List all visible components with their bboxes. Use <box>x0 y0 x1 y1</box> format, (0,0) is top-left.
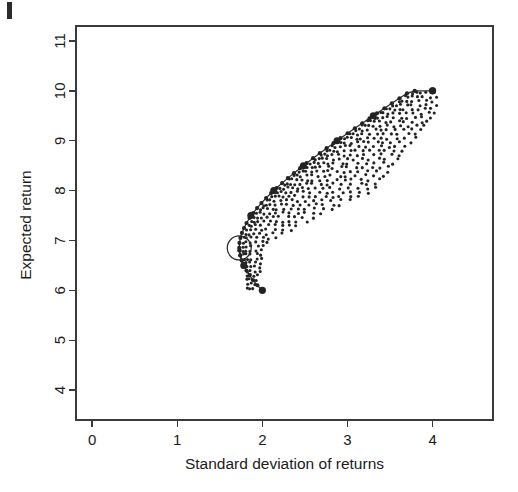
frontier-point <box>264 196 268 200</box>
x-axis-ticks <box>92 420 432 427</box>
portfolio-dot <box>350 136 353 139</box>
lower-branch-point <box>255 283 259 287</box>
portfolio-dot <box>377 140 380 143</box>
frontier-point <box>240 231 244 235</box>
portfolio-dot <box>378 157 381 160</box>
portfolio-dot <box>425 99 428 102</box>
portfolio-dot <box>366 187 369 190</box>
portfolio-dot <box>380 137 383 140</box>
portfolio-dot <box>315 202 318 205</box>
portfolio-dot <box>326 162 329 165</box>
portfolio-dot <box>419 91 422 94</box>
portfolio-dot <box>398 140 401 143</box>
portfolio-dot <box>305 173 308 176</box>
portfolio-dot <box>339 145 342 148</box>
portfolio-dot <box>399 124 402 127</box>
frontier-point <box>311 156 315 160</box>
portfolio-dot <box>360 178 363 181</box>
y-axis-ticks <box>69 41 76 390</box>
portfolio-dot <box>258 266 261 269</box>
portfolio-dot <box>282 208 285 211</box>
portfolio-dot <box>406 96 409 99</box>
portfolio-dot <box>344 178 347 181</box>
portfolio-dot <box>421 121 424 124</box>
portfolio-dot <box>261 240 264 243</box>
portfolio-dot <box>278 187 281 190</box>
x-axis-title: Standard deviation of returns <box>185 455 384 472</box>
portfolio-dot <box>248 269 251 272</box>
portfolio-dot <box>260 217 263 220</box>
frontier-point <box>237 241 241 245</box>
portfolio-dot <box>242 246 245 249</box>
portfolio-dot <box>389 120 392 123</box>
portfolio-dot <box>414 136 417 139</box>
portfolio-dot <box>256 220 259 223</box>
portfolio-dot <box>274 236 277 239</box>
portfolio-dot <box>287 220 290 223</box>
portfolio-dot <box>407 125 410 128</box>
portfolio-dot <box>392 149 395 152</box>
portfolio-dot <box>323 153 326 156</box>
portfolio-dot <box>268 212 271 215</box>
portfolio-dot <box>375 128 378 131</box>
portfolio-dot <box>349 190 352 193</box>
portfolio-dot <box>384 121 387 124</box>
portfolio-dot <box>375 169 378 172</box>
portfolio-dot <box>314 186 317 189</box>
portfolio-dot <box>318 191 321 194</box>
portfolio-dot <box>410 100 413 103</box>
portfolio-dot <box>256 258 259 261</box>
portfolio-dot <box>290 207 293 210</box>
portfolio-dot <box>361 129 364 132</box>
portfolio-dot <box>259 208 262 211</box>
portfolio-dot <box>268 203 271 206</box>
portfolio-dot <box>419 104 422 107</box>
portfolio-dot <box>256 217 259 220</box>
portfolio-dot <box>306 221 309 224</box>
portfolio-dot <box>374 186 377 189</box>
portfolio-dot <box>396 157 399 160</box>
portfolio-dot <box>251 287 254 290</box>
portfolio-dot <box>356 170 359 173</box>
portfolio-dot <box>287 215 290 218</box>
portfolio-dot <box>399 108 402 111</box>
plot-frame <box>76 26 493 420</box>
portfolio-dot <box>356 133 359 136</box>
y-tick-labels: 4567891011 <box>51 33 68 394</box>
portfolio-dot <box>247 233 250 236</box>
portfolio-dot <box>400 150 403 153</box>
portfolio-dot <box>417 108 420 111</box>
portfolio-dot <box>287 195 290 198</box>
portfolio-dot <box>367 141 370 144</box>
portfolio-dot <box>366 179 369 182</box>
portfolio-dot <box>411 121 414 124</box>
frontier-point <box>280 181 284 185</box>
portfolio-dot <box>349 153 352 156</box>
portfolio-dot <box>390 153 393 156</box>
portfolio-dot <box>402 120 405 123</box>
portfolio-dot <box>323 175 326 178</box>
portfolio-dot <box>320 198 323 201</box>
portfolio-dot <box>288 224 291 227</box>
portfolio-dot <box>381 111 384 114</box>
portfolio-dot <box>326 183 329 186</box>
y-tick-label: 4 <box>51 386 68 394</box>
portfolio-dot <box>366 136 369 139</box>
frontier-point <box>390 101 394 105</box>
portfolio-dot <box>435 96 438 99</box>
portfolio-dot <box>428 111 431 114</box>
portfolio-dot <box>326 179 329 182</box>
portfolio-dot <box>400 100 403 103</box>
axis-label-layer: 01234 4567891011 Standard deviation of r… <box>17 33 437 472</box>
portfolio-dot <box>331 191 334 194</box>
portfolio-dot <box>249 258 252 261</box>
portfolio-dot <box>254 271 257 274</box>
portfolio-dot <box>253 264 256 267</box>
annotation-markers <box>227 87 436 294</box>
portfolio-dot <box>249 228 252 231</box>
frontier-point <box>292 171 296 175</box>
portfolio-dot <box>285 203 288 206</box>
portfolio-dot <box>311 166 314 169</box>
portfolio-dot <box>346 157 349 160</box>
portfolio-dot <box>332 150 335 153</box>
